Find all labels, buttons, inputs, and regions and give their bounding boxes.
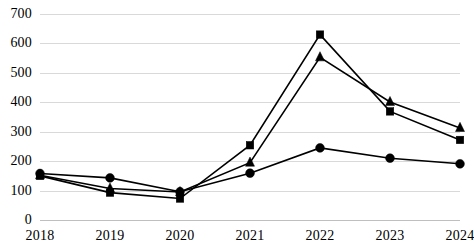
x-tick-label: 2024 — [446, 228, 474, 244]
x-tick-label: 2018 — [26, 228, 55, 244]
y-tick-label: 600 — [10, 35, 32, 51]
data-point-circle — [36, 169, 45, 178]
y-tick-label: 0 — [25, 212, 32, 228]
x-axis: 2018201920202021202220232024 — [40, 228, 460, 252]
y-tick-label: 200 — [10, 153, 32, 169]
y-tick-label: 100 — [10, 183, 32, 199]
x-tick-label: 2019 — [96, 228, 125, 244]
x-tick-label: 2023 — [376, 228, 405, 244]
data-point-circle — [106, 174, 115, 183]
series-layer — [40, 14, 460, 220]
plot-area — [40, 14, 460, 220]
data-point-triangle — [386, 96, 395, 105]
data-point-square — [316, 31, 324, 38]
x-tick-label: 2020 — [166, 228, 195, 244]
data-point-circle — [176, 187, 185, 196]
data-point-circle — [456, 159, 465, 168]
y-tick-label: 700 — [10, 6, 32, 22]
data-point-square — [246, 142, 254, 150]
data-point-triangle — [316, 52, 325, 61]
y-tick-label: 400 — [10, 94, 32, 110]
data-point-square — [456, 136, 464, 144]
gridline-0 — [40, 220, 460, 221]
y-tick-label: 300 — [10, 124, 32, 140]
series-3-circle — [36, 144, 465, 197]
y-axis: 0100200300400500600700 — [0, 0, 32, 252]
x-tick-label: 2022 — [306, 228, 335, 244]
data-point-circle — [386, 154, 395, 163]
data-point-square — [386, 108, 394, 116]
data-point-circle — [246, 169, 255, 178]
y-tick-label: 500 — [10, 65, 32, 81]
x-tick-label: 2021 — [236, 228, 265, 244]
data-point-circle — [316, 144, 325, 153]
